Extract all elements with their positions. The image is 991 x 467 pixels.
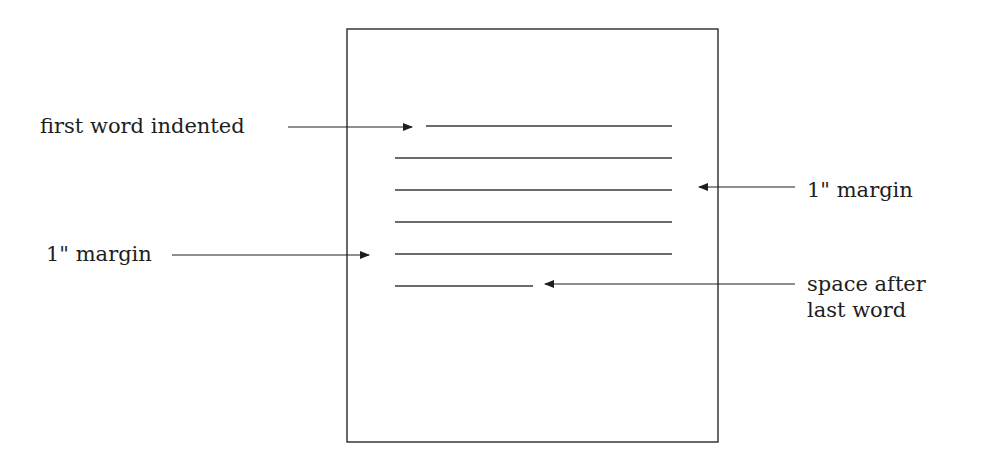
label-space-after-line2: last word <box>807 297 906 323</box>
label-right-margin: 1" margin <box>807 177 913 203</box>
label-first-word-indented: first word indented <box>40 113 245 139</box>
diagram-canvas: first word indented 1" margin 1" margin … <box>0 0 991 467</box>
callout-arrows <box>172 127 795 284</box>
diagram-graphics <box>0 0 991 467</box>
label-space-after-line1: space after <box>807 271 926 297</box>
page-outline <box>347 29 718 442</box>
page-border <box>347 29 718 442</box>
label-left-margin: 1" margin <box>46 241 152 267</box>
text-lines <box>395 126 672 286</box>
